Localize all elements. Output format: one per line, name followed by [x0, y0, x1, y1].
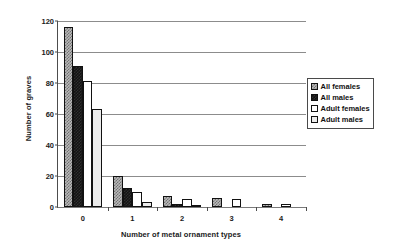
legend-item-label: Adult females [321, 105, 370, 113]
x-axis-title: Number of metal ornament types [57, 230, 305, 239]
legend-swatch-icon [311, 83, 318, 90]
legend-item[interactable]: Adult females [311, 103, 370, 114]
legend-swatch-icon [311, 116, 318, 123]
legend-swatch-icon [311, 94, 318, 101]
bar-chart-figure: Number of graves 020406080100120 01234 N… [0, 0, 399, 248]
bar-adult-females [232, 199, 242, 207]
bar-group [108, 21, 158, 207]
legend-item[interactable]: Adult males [311, 114, 370, 125]
bar-all-females [113, 176, 123, 207]
bar-all-females [64, 27, 74, 207]
y-tick-label: 60 [46, 110, 54, 119]
legend-swatch-icon [311, 105, 318, 112]
bar-all-males [123, 188, 133, 207]
bar-all-males [172, 204, 182, 207]
bar-group [157, 21, 207, 207]
y-tick-label: 120 [41, 17, 54, 26]
legend-item-label: All males [321, 94, 354, 102]
bar-all-females [262, 204, 272, 207]
y-tick-label: 20 [46, 172, 54, 181]
bar-all-females [163, 196, 173, 207]
bar-adult-males [142, 202, 152, 207]
bar-series-container [58, 21, 306, 207]
y-tick-label: 40 [46, 141, 54, 150]
y-tick-label: 100 [41, 48, 54, 57]
bar-adult-females [182, 199, 192, 207]
chart-legend: All femalesAll malesAdult femalesAdult m… [307, 78, 374, 129]
bar-group [207, 21, 257, 207]
bar-all-males [73, 66, 83, 207]
x-tick-mark [108, 207, 109, 211]
bar-group [256, 21, 306, 207]
x-tick-mark [157, 207, 158, 211]
x-tick-mark [306, 207, 307, 211]
bar-group [58, 21, 108, 207]
x-tick-mark [256, 207, 257, 211]
bar-adult-females [281, 204, 291, 207]
bar-adult-females [132, 192, 142, 208]
x-category-label: 1 [130, 214, 134, 223]
bar-adult-males [192, 205, 202, 207]
bar-adult-males [92, 109, 102, 207]
legend-item[interactable]: All females [311, 81, 370, 92]
legend-item-label: All females [321, 83, 361, 91]
x-category-label: 4 [279, 214, 283, 223]
legend-item[interactable]: All males [311, 92, 370, 103]
legend-item-label: Adult males [321, 116, 364, 124]
x-category-label: 0 [81, 214, 85, 223]
plot-area: 020406080100120 01234 [57, 21, 306, 208]
x-category-label: 3 [230, 214, 234, 223]
bar-adult-females [83, 81, 93, 207]
y-axis-title: Number of graves [24, 34, 33, 184]
x-category-label: 2 [180, 214, 184, 223]
bar-all-females [212, 198, 222, 207]
y-tick-label: 0 [50, 203, 54, 212]
y-tick-label: 80 [46, 79, 54, 88]
x-tick-mark [207, 207, 208, 211]
